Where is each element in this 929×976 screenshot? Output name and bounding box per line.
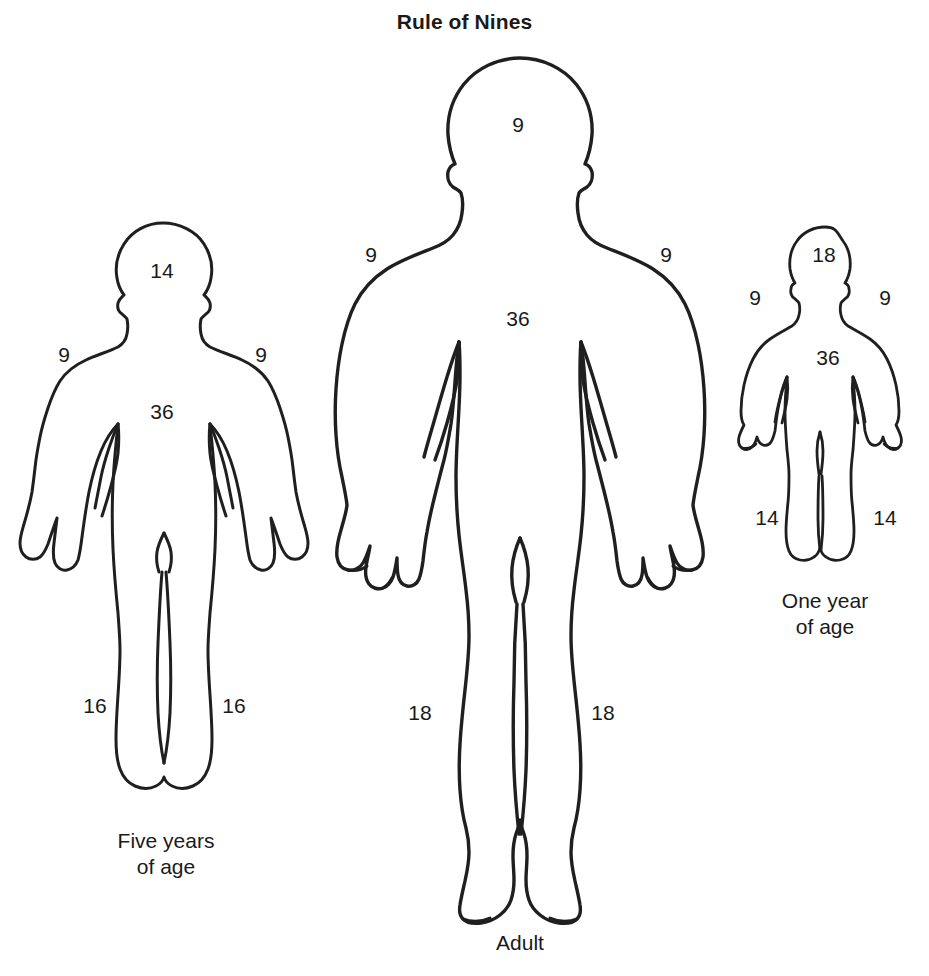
label-five-years-leg-right: 16 [222, 695, 245, 716]
figure-one-year: 18 9 9 36 14 14 One year of age [735, 222, 915, 584]
label-one-year-arm-left: 9 [749, 287, 761, 308]
label-one-year-leg-right: 14 [873, 507, 896, 528]
label-one-year-head: 18 [812, 244, 835, 265]
figure-five-years: 14 9 9 36 16 16 Five years of age [18, 215, 308, 825]
label-five-years-arm-left: 9 [58, 344, 70, 365]
label-adult-trunk: 36 [506, 308, 529, 329]
caption-one-year: One year of age [782, 588, 868, 641]
label-one-year-arm-right: 9 [879, 287, 891, 308]
label-one-year-trunk: 36 [816, 347, 839, 368]
page-title: Rule of Nines [0, 10, 929, 34]
adult-body-outline [335, 52, 705, 930]
label-adult-head: 9 [512, 114, 524, 135]
one-year-body-outline [735, 222, 915, 584]
label-five-years-leg-left: 16 [83, 695, 106, 716]
label-five-years-arm-right: 9 [255, 344, 267, 365]
label-adult-leg-left: 18 [408, 702, 431, 723]
label-adult-arm-left: 9 [365, 244, 377, 265]
label-one-year-leg-left: 14 [755, 507, 778, 528]
label-five-years-trunk: 36 [150, 401, 173, 422]
caption-five-years: Five years of age [118, 828, 215, 881]
label-adult-arm-right: 9 [660, 244, 672, 265]
rule-of-nines-diagram: Rule of Nines 14 9 9 36 16 16 Five years… [0, 0, 929, 976]
caption-adult: Adult [496, 930, 544, 956]
label-adult-leg-right: 18 [591, 702, 614, 723]
five-years-body-outline [18, 215, 308, 825]
figure-adult: 9 9 9 36 18 18 Adult [335, 52, 705, 930]
label-five-years-head: 14 [150, 260, 173, 281]
